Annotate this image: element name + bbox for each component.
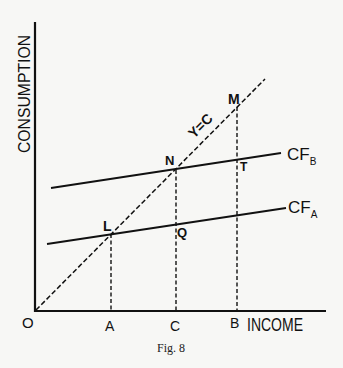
cf-b-label-base: CF <box>287 145 310 164</box>
point-label-T: T <box>240 160 248 174</box>
forty-five-line-label: Y=C <box>185 110 216 141</box>
point-label-M: M <box>228 91 240 107</box>
cf-a-line <box>47 208 286 244</box>
tick-label-C: C <box>170 318 180 334</box>
x-axis-label: INCOME <box>247 315 303 335</box>
cf-b-label: CFB <box>287 145 317 167</box>
cf-b-label-sub: B <box>310 156 317 167</box>
point-label-L: L <box>103 218 112 234</box>
figure-caption: Fig. 8 <box>157 341 185 355</box>
cf-a-label-base: CF <box>288 198 311 217</box>
point-label-N: N <box>165 153 174 168</box>
origin-label: O <box>22 314 34 331</box>
point-label-Q: Q <box>177 225 187 240</box>
tick-label-A: A <box>105 318 115 334</box>
cf-a-label: CFA <box>288 198 318 220</box>
consumption-function-diagram: CONSUMPTION INCOME O A C B Y=C CFB CFA M… <box>0 0 343 368</box>
forty-five-degree-line <box>36 79 265 310</box>
tick-label-B: B <box>230 315 239 331</box>
cf-a-label-sub: A <box>311 209 318 220</box>
y-axis-label: CONSUMPTION <box>15 35 33 153</box>
